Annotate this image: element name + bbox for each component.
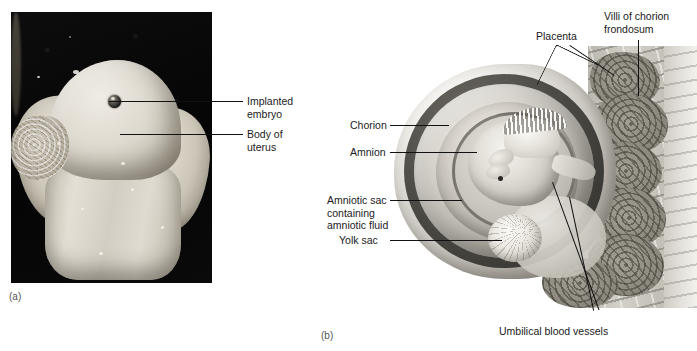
anatomy-figure: Implanted embryo Body of uterus (a) (0, 0, 697, 351)
leader-yolk-sac (390, 240, 502, 241)
specimen-highlight (121, 162, 125, 165)
specimen-highlight (161, 226, 164, 229)
uterine-wall-outer-layer (664, 46, 697, 308)
label-umbilical-blood-vessels: Umbilical blood vessels (499, 325, 608, 338)
uterus-photograph (11, 12, 212, 283)
leader-amniotic-sac (390, 200, 462, 201)
caption-panel-a: (a) (9, 291, 21, 302)
label-amniotic-sac: Amniotic sac containing amniotic fluid (327, 194, 393, 232)
embryo-eye (498, 176, 503, 181)
label-villi-of-chorion-frondosum: Villi of chorion frondosum (604, 10, 696, 35)
specimen-highlight (57, 142, 60, 145)
leader-villi-of-chorion-frondosum (638, 40, 639, 96)
leader-amnion (390, 152, 477, 153)
label-chorion: Chorion (350, 119, 387, 132)
specimen-highlight (131, 188, 134, 191)
leader-body-of-uterus (120, 134, 243, 135)
yolk-sac (488, 214, 542, 262)
leader-chorion (390, 125, 449, 126)
label-amnion: Amnion (350, 146, 386, 159)
specimen-highlight (73, 70, 79, 74)
label-placenta: Placenta (536, 30, 577, 43)
leader-implanted-embryo (109, 101, 243, 102)
uterus-midline-groove (11, 12, 21, 116)
specimen-highlight (99, 252, 103, 255)
label-implanted-embryo: Implanted embryo (247, 95, 319, 120)
label-yolk-sac: Yolk sac (339, 234, 378, 247)
specimen-highlight (69, 36, 71, 38)
placenta-diagram (392, 46, 697, 308)
specimen-highlight (81, 208, 84, 210)
specimen-highlight (37, 76, 40, 78)
implanted-embryo-glint (111, 97, 115, 100)
caption-panel-b: (b) (321, 330, 333, 341)
label-body-of-uterus: Body of uterus (247, 128, 319, 153)
